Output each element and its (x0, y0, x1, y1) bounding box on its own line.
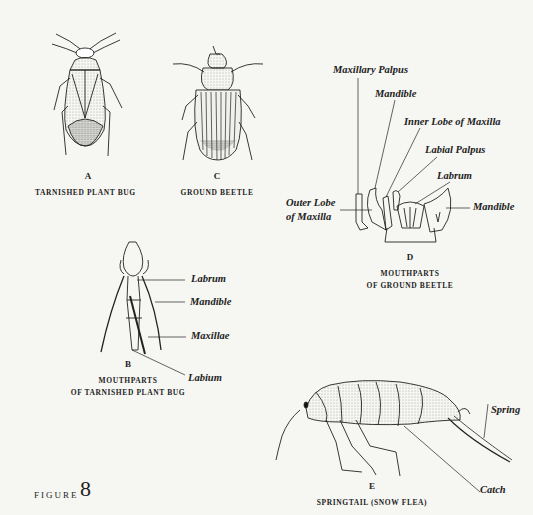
plant-bug-mouthparts-illustration (101, 242, 186, 375)
springtail-illustration (276, 381, 512, 492)
label-outer-lobe-line1: Outer Lobe (286, 197, 335, 208)
label-labial-palpus: Labial Palpus (425, 144, 485, 155)
figure-number: 8 (80, 476, 91, 502)
panel-c-caption: GROUND BEETLE (167, 188, 267, 197)
label-outer-lobe-line2: of Maxilla (286, 211, 331, 222)
label-maxillae: Maxillae (191, 330, 230, 341)
label-labrum-d: Labrum (437, 170, 472, 181)
panel-b-caption-line1: MOUTHPARTS (78, 376, 178, 385)
panel-b-letter: B (118, 359, 138, 369)
label-mandible-top: Mandible (375, 88, 416, 99)
ground-beetle-mouthparts-illustration (340, 78, 470, 242)
panel-e-letter: E (362, 481, 382, 491)
panel-c-letter: C (207, 171, 227, 181)
panel-e-caption: SPRINGTAIL (SNOW FLEA) (312, 498, 432, 507)
panel-d-letter: D (400, 252, 420, 262)
figure-word: FIGURE (34, 490, 79, 500)
label-labium: Labium (188, 372, 222, 383)
label-spring: Spring (491, 404, 520, 415)
label-maxillary-palpus: Maxillary Palpus (333, 64, 408, 75)
label-catch: Catch (480, 484, 506, 495)
panel-d-caption-line2: OF GROUND BEETLE (360, 281, 460, 290)
tarnished-plant-bug-illustration (52, 33, 122, 156)
label-inner-lobe-of-maxilla: Inner Lobe of Maxilla (404, 116, 501, 127)
panel-b-caption-line2: OF TARNISHED PLANT BUG (68, 388, 188, 397)
panel-a-letter: A (78, 171, 98, 181)
label-labrum-b: Labrum (191, 273, 226, 284)
label-mandible-b: Mandible (190, 296, 231, 307)
figure-illustrations (0, 0, 533, 515)
label-mandible-right: Mandible (473, 201, 514, 212)
panel-d-caption-line1: MOUTHPARTS (360, 269, 460, 278)
panel-a-caption: TARNISHED PLANT BUG (35, 188, 135, 197)
ground-beetle-illustration (173, 46, 263, 160)
